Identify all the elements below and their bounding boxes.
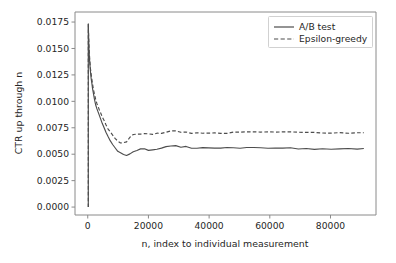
y-tick-label: 0.0150 — [37, 43, 69, 54]
x-tick-label: 20000 — [134, 220, 163, 231]
x-tick-label: 40000 — [194, 220, 223, 231]
x-tick-label: 0 — [85, 220, 91, 231]
line-chart: 0.00000.00250.00500.00750.01000.01250.01… — [0, 0, 396, 263]
legend-label-ab-test: A/B test — [299, 21, 336, 32]
chart-figure: 0.00000.00250.00500.00750.01000.01250.01… — [0, 0, 396, 263]
y-tick-label: 0.0100 — [37, 96, 69, 107]
y-tick-label: 0.0075 — [37, 122, 69, 133]
y-tick-label: 0.0125 — [37, 69, 69, 80]
y-tick-label: 0.0175 — [37, 16, 69, 27]
legend-label-epsilon-greedy: Epsilon-greedy — [299, 33, 368, 44]
x-tick-label: 80000 — [316, 220, 345, 231]
x-tick-label: 60000 — [255, 220, 284, 231]
y-tick-label: 0.0000 — [37, 201, 69, 212]
y-axis-title: CTR up through n — [13, 72, 24, 154]
y-tick-label: 0.0050 — [37, 148, 69, 159]
x-axis-title: n, index to individual measurement — [142, 238, 309, 249]
legend: A/B test Epsilon-greedy — [269, 17, 373, 48]
y-tick-label: 0.0025 — [37, 175, 69, 186]
